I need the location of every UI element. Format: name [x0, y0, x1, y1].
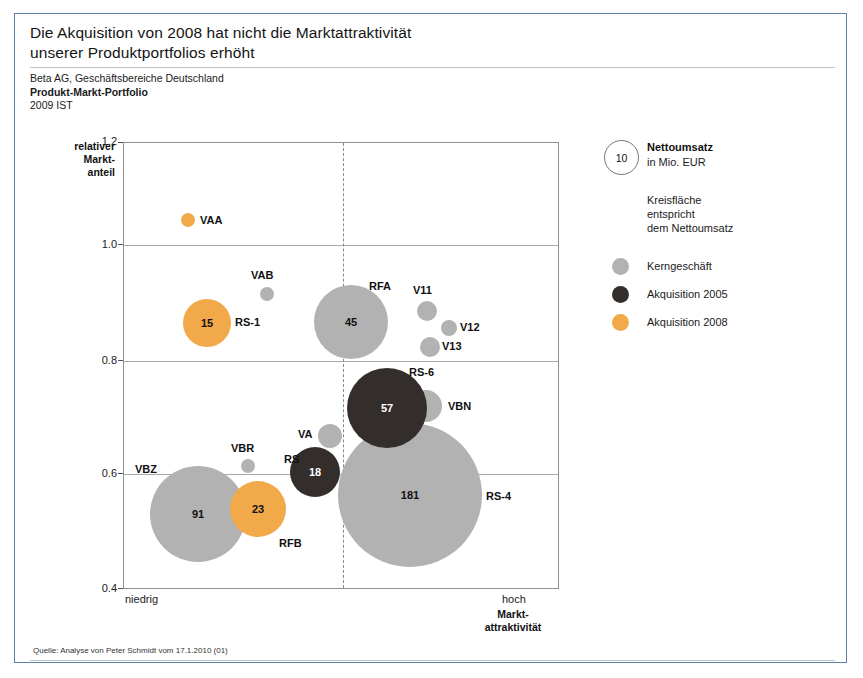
legend-label-kerngeschaeft: Kerngeschäft — [647, 260, 712, 272]
legend-size-unit: in Mio. EUR — [647, 156, 706, 168]
source-divider — [30, 660, 835, 661]
gridline-1.0 — [124, 245, 558, 246]
bubble-va[interactable] — [318, 424, 342, 448]
bubble-rs-value: 18 — [290, 466, 340, 478]
bubble-v12[interactable] — [441, 320, 457, 336]
y-axis-label-line-2: Markt- — [53, 153, 115, 166]
bubble-label-vbz: VBZ — [135, 463, 157, 475]
x-tick-low: niedrig — [125, 593, 158, 605]
legend-swatch-akquisition-2008-icon — [612, 314, 629, 331]
bubble-label-rfa: RFA — [369, 280, 391, 292]
legend-area-note-line-3: dem Nettoumsatz — [647, 221, 733, 235]
legend-size-marker-icon: 10 — [604, 140, 639, 175]
y-tick-1.2: 1.2 — [77, 135, 117, 147]
bubble-label-v13: V13 — [442, 340, 462, 352]
y-tick-0.8: 0.8 — [77, 354, 117, 366]
bubble-label-vaa: VAA — [200, 214, 222, 226]
legend-item-akquisition-2008[interactable]: Akquisition 2008 — [612, 313, 832, 335]
bubble-label-vab: VAB — [251, 269, 273, 281]
legend-area-note: Kreisfläche entspricht dem Nettoumsatz — [647, 193, 733, 235]
legend-swatch-akquisition-2005-icon — [612, 286, 629, 303]
legend-label-akquisition-2005: Akquisition 2005 — [647, 288, 728, 300]
bubble-rs-6[interactable]: 57 — [347, 368, 427, 448]
bubble-rs-1[interactable]: 15 — [183, 299, 231, 347]
plot-area: VAA VAB 15 RS-1 45 RFA V11 — [123, 142, 559, 589]
legend-item-akquisition-2005[interactable]: Akquisition 2005 — [612, 285, 832, 307]
bubble-label-rfb: RFB — [279, 537, 302, 549]
bubble-rfa-value: 45 — [314, 316, 388, 328]
bubble-rs-1-value: 15 — [183, 317, 231, 329]
bubble-rfa[interactable]: 45 — [314, 285, 388, 359]
y-tick-1.0: 1.0 — [77, 238, 117, 250]
bubble-rfb[interactable]: 23 — [230, 481, 286, 537]
bubble-label-vbr: VBR — [231, 442, 254, 454]
bubble-vbr[interactable] — [241, 459, 255, 473]
bubble-label-rs: RS — [284, 453, 299, 465]
gridline-0.8 — [124, 361, 558, 362]
bubble-chart: relativer Markt- anteil 1.2 1.0 0.8 0.6 … — [15, 14, 848, 664]
bubble-label-rs-4: RS-4 — [486, 490, 511, 502]
x-axis-label-line-2: attraktivität — [467, 621, 559, 634]
source-note: Quelle: Analyse von Peter Schmidt vom 17… — [33, 646, 228, 655]
slide-frame: Die Akquisition von 2008 hat nicht die M… — [14, 13, 847, 663]
legend-size-title: Nettoumsatz — [647, 141, 713, 153]
bubble-label-vbn: VBN — [448, 400, 471, 412]
bubble-v13[interactable] — [420, 337, 440, 357]
legend-swatch-kerngeschaeft-icon — [612, 258, 629, 275]
bubble-rfb-value: 23 — [230, 503, 286, 515]
bubble-vab[interactable] — [260, 287, 274, 301]
legend-item-kerngeschaeft[interactable]: Kerngeschäft — [612, 257, 832, 279]
bubble-vaa[interactable] — [181, 213, 195, 227]
bubble-label-va: VA — [298, 428, 312, 440]
bubble-label-rs-6: RS-6 — [409, 366, 434, 378]
legend-size-marker-value: 10 — [605, 152, 638, 164]
x-axis-label-line-1: Markt- — [467, 608, 559, 621]
bubble-label-v12: V12 — [460, 321, 480, 333]
bubble-rs-6-value: 57 — [347, 402, 427, 414]
bubble-rs-4-value: 181 — [338, 489, 482, 501]
x-tick-high: hoch — [502, 593, 526, 605]
legend-label-akquisition-2008: Akquisition 2008 — [647, 316, 728, 328]
y-tick-0.6: 0.6 — [77, 467, 117, 479]
y-axis-label-line-3: anteil — [53, 166, 115, 179]
y-tick-0.4: 0.4 — [77, 582, 117, 594]
legend-area-note-line-1: Kreisfläche — [647, 193, 733, 207]
bubble-rs-4[interactable]: 181 — [338, 423, 482, 567]
bubble-label-rs-1: RS-1 — [235, 316, 260, 328]
bubble-label-v11: V11 — [413, 284, 432, 296]
bubble-v11[interactable] — [417, 301, 437, 321]
x-axis-label: Markt- attraktivität — [467, 608, 559, 634]
legend-area-note-line-2: entspricht — [647, 207, 733, 221]
